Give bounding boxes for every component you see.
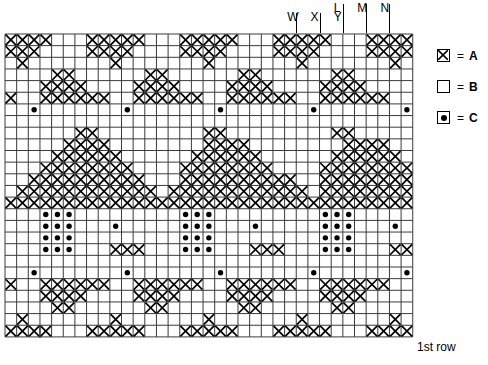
cell-c [183,224,188,229]
legend-equals-c: = [457,111,464,125]
column-leader-line [320,13,321,33]
cell-c [334,212,339,217]
column-label-strip: WXLYMN [0,0,488,33]
column-leader-line [389,4,390,33]
legend-item-c: = C [437,102,488,133]
cell-c [206,235,211,240]
cell-c [218,107,223,112]
cell-c [195,247,200,252]
legend: = A = B = C [437,40,488,133]
cell-c [334,247,339,252]
legend-equals-a: = [457,49,464,63]
grid-lines [5,34,413,337]
cell-c [31,270,36,275]
column-label-m: M [357,2,367,14]
column-label-w: W [287,11,298,23]
cell-c [55,247,60,252]
cell-c [183,247,188,252]
cell-c [55,212,60,217]
cell-c [43,247,48,252]
cell-c [43,212,48,217]
legend-label-b: B [469,80,478,94]
cell-c [323,247,328,252]
legend-item-a: = A [437,40,488,71]
cell-c [334,235,339,240]
empty-square-icon [437,80,450,93]
cell-c [253,224,258,229]
cell-c [31,107,36,112]
cell-c [43,235,48,240]
cell-c [346,224,351,229]
cell-c [206,247,211,252]
cell-c [43,224,48,229]
cell-c [404,270,409,275]
first-row-annotation: 1st row [417,340,456,354]
cell-c [183,235,188,240]
cell-c [55,224,60,229]
cell-c [323,224,328,229]
cell-c [393,224,398,229]
column-label-y: Y [334,11,342,23]
cell-c [55,235,60,240]
cell-c [346,247,351,252]
cell-c [195,224,200,229]
cell-c [346,212,351,217]
dot-glyph [441,115,447,121]
cell-c [311,107,316,112]
dotted-square-icon [437,111,450,124]
pattern-chart [4,33,414,338]
column-leader-line [343,13,344,33]
pattern-grid-svg [4,33,414,338]
cell-c [323,235,328,240]
column-label-n: N [380,2,389,14]
legend-equals-b: = [457,80,464,94]
column-label-x: X [311,11,319,23]
cell-c [206,224,211,229]
cell-c [125,270,130,275]
cell-c [206,212,211,217]
cell-c [195,212,200,217]
cell-c [334,224,339,229]
legend-label-a: A [469,49,478,63]
cell-c [66,224,71,229]
cell-c [195,235,200,240]
cell-c [125,107,130,112]
cell-c [66,247,71,252]
cell-c [218,270,223,275]
cell-c [113,224,118,229]
cell-c [346,235,351,240]
cell-c [311,270,316,275]
cell-c [66,235,71,240]
cell-c [183,212,188,217]
legend-item-b: = B [437,71,488,102]
cell-c [404,107,409,112]
cell-c [323,212,328,217]
cell-c [66,212,71,217]
legend-label-c: C [469,111,478,125]
cross-filled-square-icon [437,49,450,62]
